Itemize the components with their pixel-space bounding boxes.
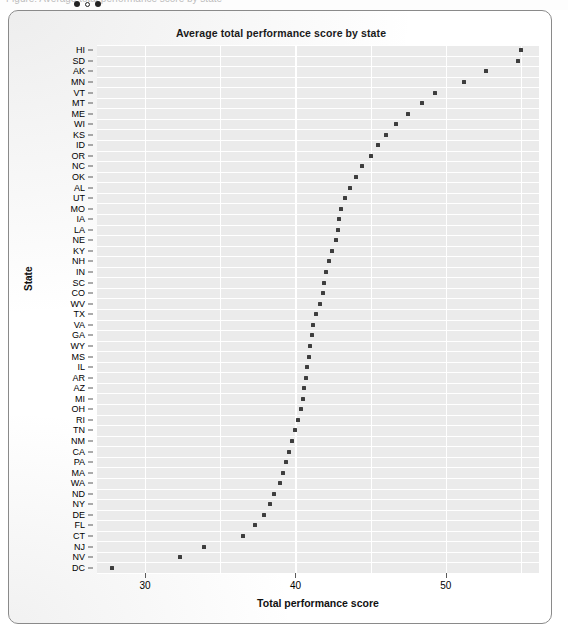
y-axis-tick-mark	[88, 272, 93, 273]
y-axis-tick-label: UT	[73, 194, 85, 203]
y-axis-tick-label: SD	[72, 56, 85, 65]
y-axis-tick-label: WA	[71, 479, 85, 488]
data-point	[307, 355, 311, 359]
y-axis-tick-mark	[88, 92, 93, 93]
y-axis-tick-mark	[88, 546, 93, 547]
gridline-horizontal	[97, 436, 539, 437]
y-axis-tick-mark	[88, 377, 93, 378]
y-axis-tick-label: KS	[73, 130, 85, 139]
y-axis-tick-mark	[88, 483, 93, 484]
gridline-horizontal	[97, 330, 539, 331]
y-axis-tick-mark	[88, 155, 93, 156]
gridline-horizontal	[97, 489, 539, 490]
y-axis-tick-mark	[88, 514, 93, 515]
y-axis-tick-label: SC	[72, 278, 85, 287]
y-axis-tick-mark	[88, 187, 93, 188]
y-axis-tick-mark	[88, 50, 93, 51]
y-axis-tick-label: NV	[72, 553, 85, 562]
gridline-horizontal	[97, 320, 539, 321]
y-axis-tick-label: AZ	[73, 384, 85, 393]
y-axis-tick-mark	[88, 71, 93, 72]
gridline-horizontal	[97, 277, 539, 278]
data-point	[308, 344, 312, 348]
y-axis-tick-label: MS	[72, 352, 86, 361]
data-point	[290, 439, 294, 443]
figure-card: Average total performance score by state…	[8, 10, 552, 624]
x-axis-tick-mark	[295, 573, 296, 578]
y-axis-tick-label: FL	[74, 521, 85, 530]
y-axis-tick-label: CA	[72, 447, 85, 456]
x-axis-title: Total performance score	[97, 597, 539, 609]
y-axis-tick-mark	[88, 557, 93, 558]
gridline-horizontal	[97, 510, 539, 511]
y-axis-tick-label: NC	[72, 162, 85, 171]
chrome-dot-1	[74, 1, 80, 7]
y-axis-tick-mark	[88, 567, 93, 568]
gridline-horizontal	[97, 56, 539, 57]
x-axis-tick-mark	[446, 573, 447, 578]
data-point	[301, 397, 305, 401]
y-axis-tick-label: MN	[71, 77, 85, 86]
data-point	[324, 270, 328, 274]
gridline-horizontal	[97, 214, 539, 215]
gridline-horizontal	[97, 541, 539, 542]
y-axis-tick-mark	[88, 335, 93, 336]
y-axis-tick-label: WY	[71, 341, 86, 350]
y-axis-tick-label: RI	[76, 415, 85, 424]
gridline-horizontal	[97, 341, 539, 342]
y-axis-tick-label: AL	[74, 183, 85, 192]
y-axis-tick-label: IA	[76, 215, 85, 224]
y-axis-tick-label: NH	[72, 257, 85, 266]
y-axis-tick-label: OR	[72, 151, 86, 160]
y-axis-tick-mark	[88, 536, 93, 537]
data-point	[304, 376, 308, 380]
y-axis-title: State	[23, 267, 34, 291]
y-axis-tick-label: VA	[74, 320, 85, 329]
plot-panel	[97, 45, 539, 573]
data-point	[484, 69, 488, 73]
cropped-app-chrome: Figure: Average total performance score …	[0, 0, 568, 10]
data-point	[384, 133, 388, 137]
y-axis-tick-label: KY	[73, 246, 85, 255]
data-point	[241, 534, 245, 538]
data-point	[293, 428, 297, 432]
y-axis-tick-mark	[88, 177, 93, 178]
gridline-horizontal	[97, 140, 539, 141]
data-point	[321, 291, 325, 295]
chrome-dot-2	[85, 2, 90, 7]
y-axis-tick-label: OK	[72, 173, 85, 182]
y-axis-tick-mark	[88, 282, 93, 283]
data-point	[262, 513, 266, 517]
data-point	[202, 545, 206, 549]
data-point	[337, 217, 341, 221]
gridline-vertical-major	[145, 45, 146, 573]
gridline-horizontal	[97, 172, 539, 173]
y-axis-tick-mark	[88, 198, 93, 199]
y-axis-tick-mark	[88, 208, 93, 209]
y-axis-tick-mark	[88, 134, 93, 135]
y-axis-tick-label: AK	[73, 67, 85, 76]
chart-title: Average total performance score by state	[9, 27, 552, 39]
y-axis-tick-mark	[88, 145, 93, 146]
data-point	[343, 196, 347, 200]
y-axis-tick-mark	[88, 409, 93, 410]
x-axis-tick-label: 30	[140, 580, 151, 591]
data-point	[253, 523, 257, 527]
y-axis-tick-label: CO	[72, 289, 86, 298]
gridline-horizontal	[97, 393, 539, 394]
x-axis-tick-mark	[145, 573, 146, 578]
data-point	[462, 80, 466, 84]
gridline-horizontal	[97, 562, 539, 563]
gridline-horizontal	[97, 446, 539, 447]
gridline-horizontal	[97, 404, 539, 405]
data-point	[318, 302, 322, 306]
y-axis-tick-label: ME	[72, 109, 86, 118]
y-axis-tick-mark	[88, 324, 93, 325]
gridline-vertical-major	[446, 45, 447, 573]
y-axis-tick-mark	[88, 472, 93, 473]
data-point	[376, 143, 380, 147]
y-axis-tick-label: TN	[73, 426, 85, 435]
data-point	[272, 492, 276, 496]
x-axis-tick-label: 50	[440, 580, 451, 591]
gridline-horizontal	[97, 351, 539, 352]
